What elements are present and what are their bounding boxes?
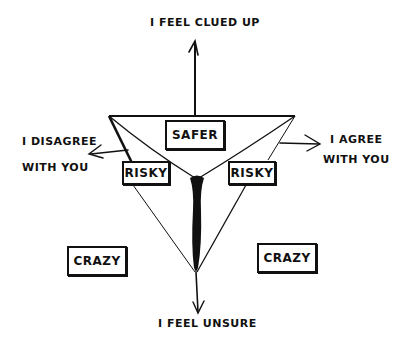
axis-label-right-line2: WITH YOU [323, 152, 390, 168]
axis-label-top: I FEEL CLUED UP [150, 15, 260, 31]
central-stem [190, 176, 204, 273]
zone-risky-left: RISKY [122, 161, 170, 185]
zone-crazy-right: CRAZY [257, 243, 317, 273]
right-arrow-icon [280, 135, 320, 151]
zone-risky-right: RISKY [228, 161, 276, 185]
axis-label-left-line2: WITH YOU [22, 160, 89, 176]
axis-label-left-line1: I DISAGREE [22, 134, 97, 150]
down-arrow-icon [193, 272, 204, 313]
zone-safer: SAFER [165, 120, 225, 150]
axis-label-bottom: I FEEL UNSURE [158, 316, 257, 332]
axis-label-right-line1: I AGREE [330, 132, 382, 148]
up-arrow-icon [189, 41, 198, 116]
zone-crazy-left: CRAZY [67, 246, 127, 276]
